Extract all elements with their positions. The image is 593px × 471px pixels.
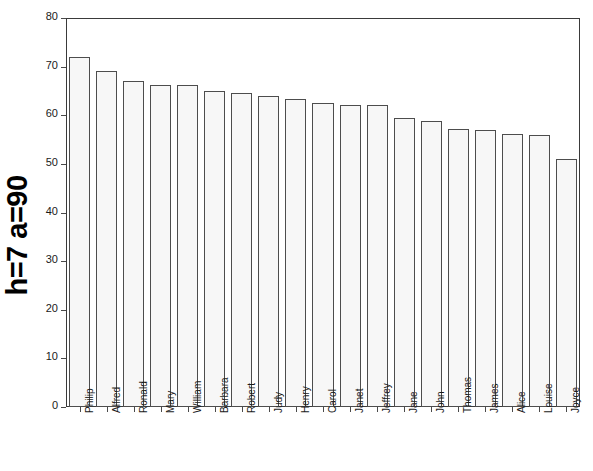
x-axis-tick-mark	[458, 407, 459, 412]
x-axis-tick-mark	[404, 407, 405, 412]
x-axis-tick-mark	[188, 407, 189, 412]
x-axis-tick-label: James	[489, 384, 500, 413]
x-axis-tick-mark	[323, 407, 324, 412]
x-axis-tick-label: Alice	[516, 391, 527, 413]
bar	[340, 105, 361, 407]
x-axis-tick-label: Carol	[327, 389, 338, 413]
x-axis-tick-mark	[161, 407, 162, 412]
x-axis-tick-mark	[296, 407, 297, 412]
x-axis-tick-label: Jeffrey	[381, 383, 392, 413]
x-axis-tick-mark	[539, 407, 540, 412]
bar	[529, 135, 550, 407]
bar	[421, 121, 442, 407]
x-axis-tick-label: Thomas	[462, 377, 473, 413]
bar	[448, 129, 469, 407]
x-axis-tick-label: Jane	[408, 391, 419, 413]
x-axis-tick-label: Janet	[354, 389, 365, 413]
x-axis-tick-label: Alfred	[111, 387, 122, 413]
bar	[150, 85, 171, 407]
x-axis-tick-mark	[80, 407, 81, 412]
x-axis-tick-label: Louise	[543, 384, 554, 413]
x-axis-tick-mark	[134, 407, 135, 412]
x-axis-tick-label: John	[435, 391, 446, 413]
x-axis-tick-mark	[512, 407, 513, 412]
x-axis-tick-label: William	[192, 381, 203, 413]
x-axis-tick-mark	[485, 407, 486, 412]
bar	[96, 71, 117, 407]
x-axis-tick-label: Judy	[273, 392, 284, 413]
x-axis-tick-label: Ronald	[138, 381, 149, 413]
bar	[258, 96, 279, 407]
bar	[502, 134, 523, 407]
bar	[394, 118, 415, 407]
x-axis-tick-mark	[242, 407, 243, 412]
bar	[312, 103, 333, 407]
bar	[231, 93, 252, 407]
x-axis-tick-mark	[431, 407, 432, 412]
bar	[204, 91, 225, 407]
x-axis-tick-label: Robert	[246, 383, 257, 413]
x-axis-tick-label: Henry	[300, 386, 311, 413]
x-axis-tick-mark	[107, 407, 108, 412]
bar-chart: h=7 a=90 01020304050607080 PhilipAlfredR…	[0, 0, 593, 471]
bar	[367, 105, 388, 407]
x-axis-tick-label: Mary	[165, 391, 176, 413]
bar	[69, 57, 90, 407]
x-axis-tick-mark	[566, 407, 567, 412]
x-axis-tick-label: Barbara	[219, 377, 230, 413]
bar	[123, 81, 144, 407]
x-axis-tick-mark	[269, 407, 270, 412]
bars-layer: PhilipAlfredRonaldMaryWilliamBarbaraRobe…	[0, 0, 593, 471]
x-axis-tick-mark	[377, 407, 378, 412]
bar	[285, 99, 306, 407]
bar	[177, 85, 198, 407]
x-axis-tick-label: Joyce	[570, 387, 581, 413]
x-axis-tick-mark	[215, 407, 216, 412]
x-axis-tick-mark	[350, 407, 351, 412]
x-axis-tick-label: Philip	[84, 389, 95, 413]
bar	[475, 130, 496, 407]
bar	[556, 159, 577, 407]
